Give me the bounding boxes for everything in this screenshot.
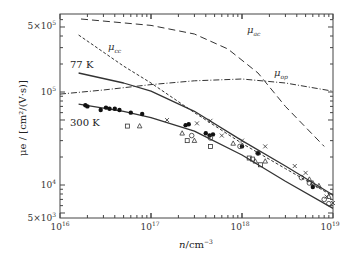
marker-open-triangle xyxy=(192,138,197,142)
axis-ticks xyxy=(60,14,333,218)
marker-open-square xyxy=(208,144,212,148)
marker-open-square xyxy=(185,139,189,143)
x-tick-1e17: 1017 xyxy=(140,220,159,232)
marker-filled-circle xyxy=(113,107,117,111)
marker-x xyxy=(263,144,267,148)
marker-x xyxy=(293,164,297,168)
marker-filled-circle xyxy=(85,104,89,108)
marker-open-circle xyxy=(322,197,327,202)
marker-x xyxy=(165,118,169,122)
marker-open-triangle xyxy=(231,141,236,145)
marker-filled-circle xyxy=(204,131,208,135)
y-tick-1e4: 104 xyxy=(41,178,56,190)
marker-open-circle xyxy=(327,201,332,206)
marker-open-triangle xyxy=(180,131,185,135)
marker-open-triangle xyxy=(263,159,268,163)
curve--op xyxy=(60,79,333,94)
marker-filled-circle xyxy=(107,107,111,111)
marker-filled-circle xyxy=(187,122,191,126)
label-77k: 77 K xyxy=(70,59,94,70)
marker-x xyxy=(195,121,199,125)
marker-x xyxy=(240,139,244,143)
curve--ac xyxy=(81,19,324,146)
y-tick-5e5: 5×105 xyxy=(27,19,56,31)
label-mu-op: μop xyxy=(274,67,288,81)
marker-open-triangle xyxy=(137,124,142,128)
marker-open-circle xyxy=(189,133,194,138)
y-tick-1e5: 105 xyxy=(41,85,56,97)
marker-filled-circle xyxy=(117,108,121,112)
x-tick-1e16: 1016 xyxy=(50,220,69,232)
marker-filled-circle xyxy=(129,110,133,114)
label-mu-ac: μac xyxy=(247,24,261,37)
label-300k: 300 K xyxy=(70,117,100,128)
curves xyxy=(60,19,333,208)
plot-frame xyxy=(60,14,333,218)
marker-x xyxy=(304,171,308,175)
marker-filled-circle xyxy=(98,108,102,112)
marker-filled-circle xyxy=(311,185,315,189)
marker-open-square xyxy=(125,124,129,128)
label-mu-cc: μcc xyxy=(108,41,122,54)
x-axis-title: n/cm−3 xyxy=(179,238,213,250)
x-tick-1e18: 1018 xyxy=(230,220,249,232)
marker-x xyxy=(220,134,224,138)
marker-filled-circle xyxy=(140,112,144,116)
x-tick-1e19: 1019 xyxy=(320,220,339,232)
data-points xyxy=(83,103,335,206)
mobility-chart: 5×105 105 104 5×103 1016 1017 1018 1019 … xyxy=(0,0,346,261)
y-axis-title: μe / [cm²/(V·s)] xyxy=(17,80,28,156)
